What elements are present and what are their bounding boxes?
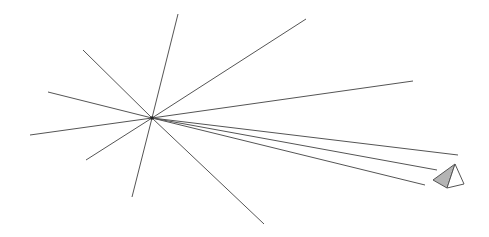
ray-line [132, 118, 152, 197]
ray-line [152, 118, 437, 170]
ray-line [152, 19, 306, 118]
center-point [150, 116, 154, 120]
pyramid-camera-icon [433, 164, 464, 188]
ray-line [152, 118, 264, 224]
ray-line [86, 118, 152, 160]
ray-line [152, 14, 178, 118]
ray-line [152, 118, 458, 155]
ray-line [83, 50, 152, 118]
ray-line [152, 118, 425, 185]
ray-line [30, 118, 152, 135]
ray-lines [30, 14, 458, 224]
diagram-canvas [0, 0, 489, 237]
ray-line [48, 92, 152, 118]
ray-line [152, 81, 413, 118]
